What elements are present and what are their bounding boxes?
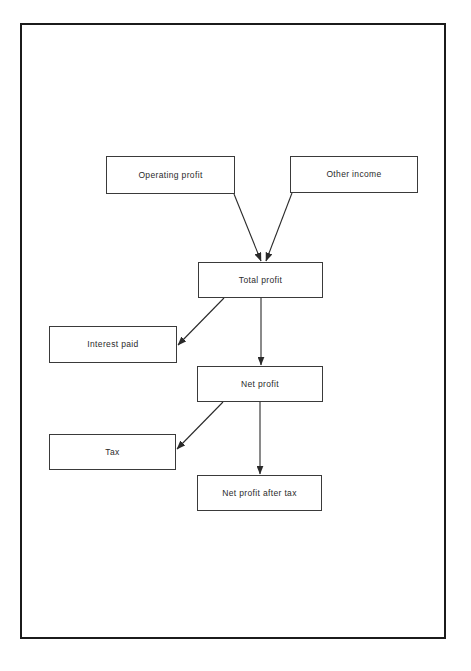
node-other-income[interactable]: Other income	[290, 156, 418, 193]
node-label-interest-paid: Interest paid	[87, 340, 138, 349]
diagram-page: Operating profitOther incomeTotal profit…	[0, 0, 471, 671]
node-interest-paid[interactable]: Interest paid	[49, 326, 177, 363]
node-total-profit[interactable]: Total profit	[198, 262, 323, 298]
node-net-profit[interactable]: Net profit	[197, 366, 323, 402]
node-label-tax: Tax	[105, 448, 119, 457]
node-net-profit-after-tax[interactable]: Net profit after tax	[197, 475, 322, 511]
node-operating-profit[interactable]: Operating profit	[106, 156, 235, 194]
node-label-total-profit: Total profit	[239, 276, 282, 285]
node-label-operating-profit: Operating profit	[138, 171, 202, 180]
node-label-net-profit: Net profit	[241, 380, 279, 389]
node-label-other-income: Other income	[326, 170, 381, 179]
node-tax[interactable]: Tax	[49, 434, 176, 470]
node-label-net-profit-after-tax: Net profit after tax	[222, 489, 297, 498]
